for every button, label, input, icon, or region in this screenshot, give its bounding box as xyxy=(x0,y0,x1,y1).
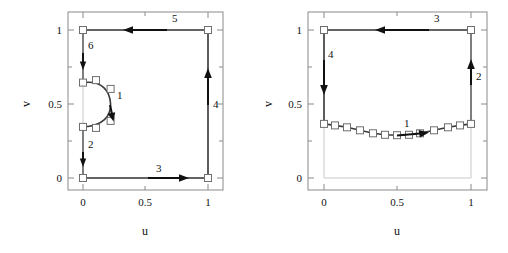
plot-right-svg: 3 2 4 1 1 0.5 0 0 0.5 1 u v xyxy=(254,0,508,253)
y-axis-ticks-right xyxy=(308,30,487,178)
direction-arrows-left xyxy=(80,26,212,182)
y-axis-title-right: v xyxy=(261,101,275,107)
data-markers-left xyxy=(80,27,212,182)
arrow-label-3: 3 xyxy=(434,12,440,24)
x-tick-label-0: 0 xyxy=(80,196,86,208)
x-tick-label-0.5: 0.5 xyxy=(138,196,152,208)
y-tick-label-0: 0 xyxy=(297,172,303,184)
arrow-label-6: 6 xyxy=(88,39,94,51)
arrow-label-3: 3 xyxy=(156,162,162,174)
plot-frame-right xyxy=(308,12,487,190)
arrow-label-2: 2 xyxy=(88,138,94,150)
arrow-label-1: 1 xyxy=(404,117,410,129)
plot-panel-left: 5 4 3 6 2 1 1 0.5 0 0 0.5 1 u v xyxy=(0,0,254,253)
guide-lines-right xyxy=(324,30,471,178)
x-tick-label-0: 0 xyxy=(321,196,327,208)
arrow-label-2: 2 xyxy=(476,70,482,82)
x-tick-labels-right: 0 0.5 1 xyxy=(321,196,474,208)
x-tick-label-0.5: 0.5 xyxy=(390,196,404,208)
arrow-label-5: 5 xyxy=(172,12,178,24)
x-tick-label-1: 1 xyxy=(468,196,474,208)
x-axis-ticks-left xyxy=(83,12,208,190)
arrow-label-1: 1 xyxy=(117,89,123,101)
x-tick-label-1: 1 xyxy=(205,196,211,208)
y-tick-label-1: 1 xyxy=(297,24,303,36)
figure-two-panel-parametric-plots: 5 4 3 6 2 1 1 0.5 0 0 0.5 1 u v xyxy=(0,0,508,253)
x-axis-ticks-right xyxy=(324,12,471,190)
guide-lines-left xyxy=(83,30,208,178)
y-tick-label-1: 1 xyxy=(57,24,63,36)
x-tick-labels-left: 0 0.5 1 xyxy=(80,196,211,208)
y-tick-labels-left: 1 0.5 0 xyxy=(48,24,62,184)
arrow-label-4: 4 xyxy=(213,98,219,110)
series-segment-1-arc-left xyxy=(83,82,111,127)
y-tick-label-0.5: 0.5 xyxy=(48,98,62,110)
direction-arrows-right xyxy=(320,26,475,137)
x-axis-title-left: u xyxy=(142,224,148,238)
y-tick-label-0: 0 xyxy=(57,172,63,184)
x-axis-title-right: u xyxy=(394,224,400,238)
arrow-label-4: 4 xyxy=(328,48,334,60)
y-tick-labels-right: 1 0.5 0 xyxy=(288,24,302,184)
plot-panel-right: 3 2 4 1 1 0.5 0 0 0.5 1 u v xyxy=(254,0,508,253)
y-axis-title-left: v xyxy=(19,101,33,107)
plot-left-svg: 5 4 3 6 2 1 1 0.5 0 0 0.5 1 u v xyxy=(0,0,254,253)
y-axis-ticks-left xyxy=(68,30,223,178)
data-markers-right xyxy=(321,27,475,139)
y-tick-label-0.5: 0.5 xyxy=(288,98,302,110)
